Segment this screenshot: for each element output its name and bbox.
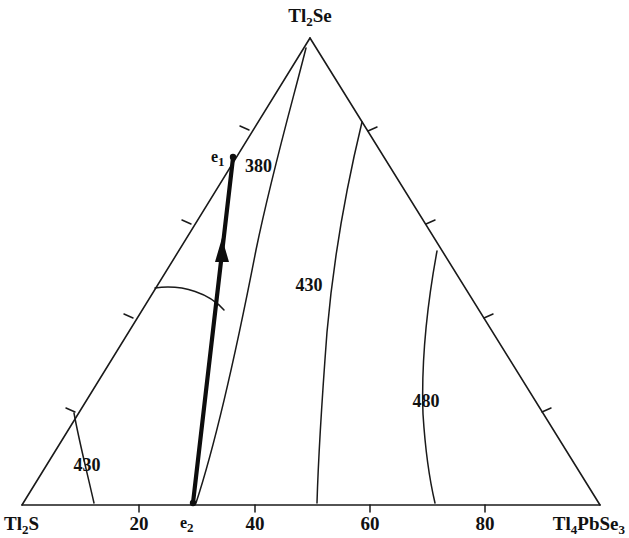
isotherm-label-380: 380 xyxy=(245,156,272,176)
axis-tick-label-40: 40 xyxy=(246,513,265,534)
right-edge-tick-3 xyxy=(484,314,493,318)
apex-label-tl2se: Tl2Se xyxy=(288,5,331,29)
right-edge-tick-4 xyxy=(542,408,551,412)
point-marker-e1 xyxy=(230,154,236,160)
corner-label-tl4pbse3: Tl4PbSe3 xyxy=(553,513,626,537)
isotherm-label-430-center: 430 xyxy=(296,275,323,295)
point-marker-e2 xyxy=(190,500,196,506)
monovariant-boundary-e1-e2 xyxy=(190,154,236,506)
isotherm-curves xyxy=(74,48,437,503)
base-tick-marks xyxy=(139,505,485,512)
right-edge-tick-2 xyxy=(426,220,435,224)
isotherm-label-480-right: 480 xyxy=(413,391,440,411)
tie-line-curve-left xyxy=(155,287,224,310)
isotherm-label-430-left: 430 xyxy=(74,455,101,475)
corner-label-tl2s: Tl2S xyxy=(4,513,39,537)
left-edge-tick-3 xyxy=(182,220,191,224)
left-edge-tick-1 xyxy=(66,408,75,412)
flow-direction-arrow-icon xyxy=(215,238,229,262)
phase-diagram-canvas: Tl2Se Tl2S Tl4PbSe3 20 40 60 80 e1 e2 38… xyxy=(0,0,629,538)
axis-tick-label-60: 60 xyxy=(361,513,380,534)
axis-tick-label-80: 80 xyxy=(476,513,495,534)
right-edge-tick-1 xyxy=(368,127,377,131)
triangle-left-edge xyxy=(22,38,310,505)
boundary-line-e1-e2 xyxy=(193,158,233,503)
left-edge-tick-4 xyxy=(240,126,249,130)
isotherm-curve-430-center xyxy=(317,122,362,503)
triangle-right-edge xyxy=(310,38,600,505)
isotherm-curve-480-right xyxy=(423,251,437,503)
triangle-outline xyxy=(22,38,600,505)
ternary-phase-diagram: Tl2Se Tl2S Tl4PbSe3 20 40 60 80 e1 e2 38… xyxy=(0,0,629,538)
left-edge-tick-2 xyxy=(124,314,133,318)
axis-tick-label-20: 20 xyxy=(130,513,149,534)
isotherm-curve-380 xyxy=(196,48,306,503)
right-edge-tick-marks xyxy=(368,127,551,412)
point-label-e2: e2 xyxy=(180,514,194,535)
point-label-e1: e1 xyxy=(211,148,225,169)
